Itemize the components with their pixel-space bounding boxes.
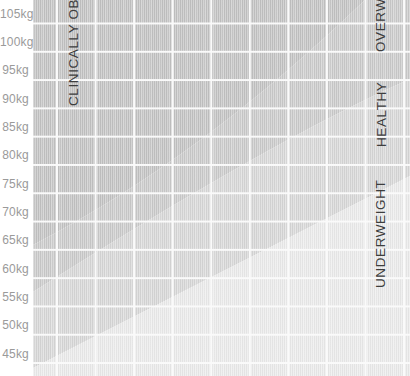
y-axis-label: 75kg <box>0 177 29 191</box>
y-axis-label: 45kg <box>0 347 29 361</box>
y-axis-label: 85kg <box>0 120 29 134</box>
weight-status-chart: 105kg 100kg 95kg 90kg 85kg 80kg 75kg 70k… <box>0 0 410 376</box>
y-axis-label: 65kg <box>0 233 29 247</box>
y-axis-label: 50kg <box>0 318 29 332</box>
zone-areas <box>0 0 410 376</box>
y-axis-label: 100kg <box>0 35 29 49</box>
y-axis-label: 95kg <box>0 63 29 77</box>
y-axis-label: 60kg <box>0 262 29 276</box>
y-axis-label: 55kg <box>0 290 29 304</box>
y-axis-label: 80kg <box>0 148 29 162</box>
y-axis-label: 105kg <box>0 7 29 21</box>
y-axis-label: 70kg <box>0 205 29 219</box>
y-axis-label: 90kg <box>0 92 29 106</box>
